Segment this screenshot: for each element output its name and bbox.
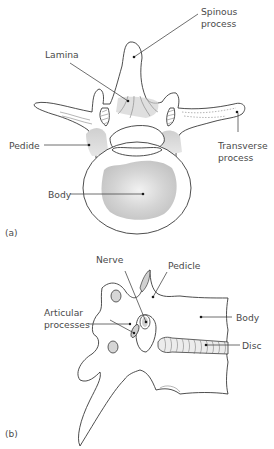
label-lamina: Lamina [45,49,79,60]
label-articular-processes-line2: processes [44,319,90,330]
panel-marker-b: (b) [5,429,18,439]
panel-marker-a: (a) [5,228,18,238]
label-spinous-process-line1: Spinous [201,6,237,17]
label-articular-processes-line1: Articular [44,307,83,318]
label-transverse-process-line2: process [218,152,254,163]
label-body-b: Body [236,312,260,323]
label-pedicle-a: Pedide [9,140,40,151]
panel-a: Spinous process Lamina Pedide Transverse… [5,6,268,238]
vertebra-diagram: Spinous process Lamina Pedide Transverse… [0,0,274,449]
label-pedicle-b: Pedicle [168,260,201,271]
body-cancellous-shade [102,161,177,220]
process-oval-upper [111,290,121,302]
label-nerve: Nerve [96,254,124,265]
label-spinous-process-line2: process [201,18,237,29]
process-oval-lower [108,341,118,353]
label-disc: Disc [242,340,261,351]
label-body-a: Body [48,189,72,200]
panel-b: Nerve Pedicle Articular processes Body D… [5,254,261,446]
label-transverse-process-line1: Transverse [217,140,268,151]
